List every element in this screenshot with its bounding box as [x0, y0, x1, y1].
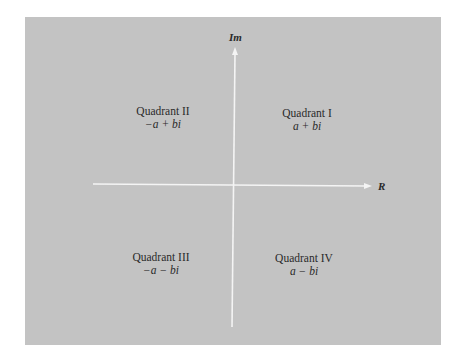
quadrant-name: Quadrant III: [106, 251, 216, 264]
quadrant-iii: Quadrant III −a − bi: [106, 251, 216, 277]
quadrant-expression: a + bi: [252, 120, 362, 133]
real-axis-label: R: [378, 180, 385, 192]
quadrant-expression: a − bi: [249, 265, 359, 278]
quadrant-name: Quadrant IV: [249, 252, 359, 265]
quadrant-expression: −a + bi: [108, 118, 218, 131]
quadrant-name: Quadrant II: [108, 105, 218, 118]
quadrant-iv: Quadrant IV a − bi: [249, 252, 359, 278]
quadrant-name: Quadrant I: [252, 107, 362, 120]
vertical-axis: [232, 47, 238, 327]
quadrant-i: Quadrant I a + bi: [252, 107, 362, 133]
quadrant-expression: −a − bi: [106, 264, 216, 277]
quadrant-ii: Quadrant II −a + bi: [108, 105, 218, 131]
horizontal-axis: [93, 183, 372, 189]
imaginary-axis-label: Im: [229, 31, 242, 43]
arrow-up-icon: [232, 47, 238, 55]
axes: [0, 0, 464, 361]
arrow-right-icon: [364, 183, 372, 189]
